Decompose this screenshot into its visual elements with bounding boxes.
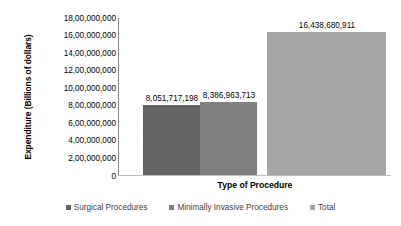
- legend-item[interactable]: Minimally Invasive Procedures: [169, 203, 288, 212]
- bar-value-label: 8,386,963,713: [174, 91, 284, 100]
- chart-legend: Surgical ProceduresMinimally Invasive Pr…: [0, 203, 401, 212]
- y-axis-tick-label: 12,00,000,000: [30, 66, 116, 75]
- legend-item[interactable]: Surgical Procedures: [66, 203, 148, 212]
- x-axis-baseline: [118, 175, 391, 176]
- y-axis-tick-label: 2,00,000,000: [30, 154, 116, 163]
- legend-label: Minimally Invasive Procedures: [177, 203, 288, 212]
- bar-chart: Expenditure (Billions of dollars) 18,00,…: [0, 0, 401, 226]
- bar: [200, 102, 257, 175]
- y-axis-tick-label: 16,00,000,000: [30, 31, 116, 40]
- legend-label: Surgical Procedures: [74, 203, 148, 212]
- x-axis-title: Type of Procedure: [119, 180, 391, 190]
- legend-swatch-icon: [310, 205, 315, 210]
- legend-item[interactable]: Total: [310, 203, 335, 212]
- bar: [143, 105, 200, 175]
- y-axis-tick-labels: 18,00,000,00016,00,000,00014,00,000,0001…: [30, 12, 116, 180]
- y-axis-tick-label: 10,00,000,000: [30, 84, 116, 93]
- y-axis-tick-label: 8,00,000,000: [30, 101, 116, 110]
- bar: [267, 32, 386, 175]
- plot-area: 8,051,717,1988,386,963,71316,438,680,911: [119, 18, 391, 175]
- legend-label: Total: [318, 203, 335, 212]
- y-axis-tick-label: 0: [30, 172, 116, 181]
- legend-swatch-icon: [169, 205, 174, 210]
- y-axis-tick-label: 4,00,000,000: [30, 136, 116, 145]
- bar-value-label: 16,438,680,911: [272, 21, 382, 30]
- y-axis-tick-label: 18,00,000,000: [30, 14, 116, 23]
- legend-swatch-icon: [66, 205, 71, 210]
- y-axis-tick-label: 14,00,000,000: [30, 49, 116, 58]
- y-axis-tick-label: 6,00,000,000: [30, 119, 116, 128]
